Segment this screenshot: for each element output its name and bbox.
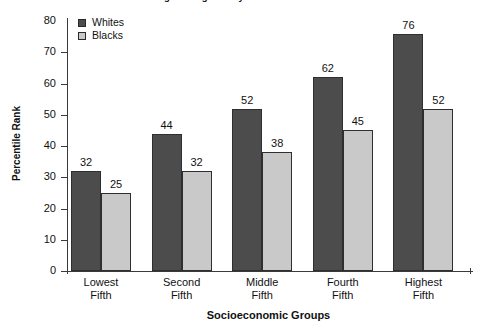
x-group-label-line: Fifth bbox=[63, 289, 139, 302]
y-tick-label-60: 60 bbox=[26, 78, 56, 89]
bar-value-label: 62 bbox=[307, 63, 349, 74]
y-tick-label-20: 20 bbox=[26, 203, 56, 214]
x-group-label-middle-fifth: MiddleFifth bbox=[224, 276, 300, 301]
x-group-label-lowest-fifth: LowestFifth bbox=[63, 276, 139, 301]
bars-container: 32254432523862457652 bbox=[67, 21, 470, 271]
x-group-label-line: Middle bbox=[224, 276, 300, 289]
y-tick-mark-50 bbox=[61, 115, 67, 116]
y-tick-mark-60 bbox=[61, 84, 67, 85]
bar-blacks-fourth-fifth[interactable] bbox=[343, 130, 373, 271]
y-tick-mark-20 bbox=[61, 209, 67, 210]
y-axis-title: Percentile Rank bbox=[11, 84, 22, 204]
x-axis-right-cap bbox=[470, 268, 471, 274]
bar-value-label: 25 bbox=[95, 179, 137, 190]
bar-whites-middle-fifth[interactable] bbox=[232, 109, 262, 272]
y-tick-label-40: 40 bbox=[26, 140, 56, 151]
y-tick-mark-70 bbox=[61, 52, 67, 53]
bar-value-label: 76 bbox=[387, 20, 429, 31]
y-axis-tick-labels: 80706050403020100 bbox=[23, 0, 56, 327]
bar-value-label: 52 bbox=[417, 95, 459, 106]
y-tick-label-0: 0 bbox=[26, 265, 56, 276]
bar-whites-highest-fifth[interactable] bbox=[393, 34, 423, 272]
y-tick-mark-40 bbox=[61, 146, 67, 147]
bar-value-label: 45 bbox=[337, 116, 379, 127]
bar-blacks-highest-fifth[interactable] bbox=[423, 109, 453, 272]
bar-blacks-second-fifth[interactable] bbox=[182, 171, 212, 271]
y-tick-label-30: 30 bbox=[26, 171, 56, 182]
x-axis-group-labels: LowestFifthSecondFifthMiddleFifthFourthF… bbox=[67, 276, 470, 306]
y-tick-mark-30 bbox=[61, 177, 67, 178]
y-tick-mark-10 bbox=[61, 240, 67, 241]
bar-whites-second-fifth[interactable] bbox=[152, 134, 182, 272]
y-tick-mark-0 bbox=[61, 271, 67, 272]
x-group-label-fourth-fifth: FourthFifth bbox=[305, 276, 381, 301]
x-group-label-line: Lowest bbox=[63, 276, 139, 289]
y-tick-label-70: 70 bbox=[26, 46, 56, 57]
x-group-label-line: Fifth bbox=[224, 289, 300, 302]
y-tick-label-10: 10 bbox=[26, 234, 56, 245]
bar-value-label: 44 bbox=[146, 120, 188, 131]
x-group-label-line: Fifth bbox=[305, 289, 381, 302]
bar-value-label: 32 bbox=[176, 157, 218, 168]
y-tick-label-50: 50 bbox=[26, 109, 56, 120]
x-group-label-line: Second bbox=[144, 276, 220, 289]
x-axis-line bbox=[64, 271, 473, 272]
bar-whites-fourth-fifth[interactable] bbox=[313, 77, 343, 271]
x-group-label-second-fifth: SecondFifth bbox=[144, 276, 220, 301]
x-group-label-line: Fifth bbox=[385, 289, 461, 302]
x-group-label-highest-fifth: HighestFifth bbox=[385, 276, 461, 301]
x-group-label-line: Fourth bbox=[305, 276, 381, 289]
bar-blacks-lowest-fifth[interactable] bbox=[101, 193, 131, 271]
bar-blacks-middle-fifth[interactable] bbox=[262, 152, 292, 271]
x-group-label-line: Fifth bbox=[144, 289, 220, 302]
x-group-label-line: Highest bbox=[385, 276, 461, 289]
bar-value-label: 32 bbox=[65, 157, 107, 168]
bar-value-label: 52 bbox=[226, 95, 268, 106]
bar-value-label: 38 bbox=[256, 138, 298, 149]
x-axis-title: Socioeconomic Groups bbox=[67, 309, 470, 321]
chart-title: 2. Mathematics Skills on Entering Kinder… bbox=[22, 0, 482, 2]
y-tick-label-80: 80 bbox=[26, 15, 56, 26]
